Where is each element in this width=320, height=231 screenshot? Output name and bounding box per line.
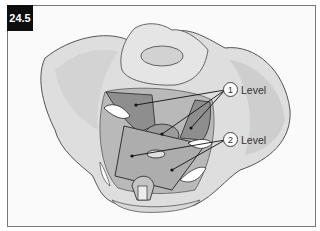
pelvis-illustration [0, 0, 320, 231]
label-number-circle: 1 [223, 82, 238, 97]
figure-number-badge: 24.5 [7, 5, 33, 31]
label-text: Level [241, 84, 266, 96]
label-text: Level [241, 134, 266, 146]
label-level-2: 2 Level [223, 132, 266, 147]
figure-frame: 24.5 1 Level 2 Level [0, 0, 320, 231]
label-number-circle: 2 [223, 132, 238, 147]
label-level-1: 1 Level [223, 82, 266, 97]
